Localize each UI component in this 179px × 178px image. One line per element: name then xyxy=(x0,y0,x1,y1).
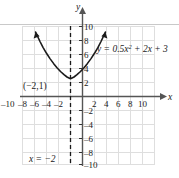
axis-of-symmetry-label: x = −2 xyxy=(28,154,56,164)
y-tick-label-4: 4 xyxy=(84,64,89,74)
x-tick-label-neg2: –2 xyxy=(53,99,63,109)
x-tick-label-neg8: –8 xyxy=(17,99,28,109)
graph-figure: 10 8 6 4 2 –2 –4 –6 –8 –10 –10 –8 –6 –4 … xyxy=(0,0,179,178)
x-tick-label-2: 2 xyxy=(92,99,97,109)
x-tick-label-8: 8 xyxy=(128,99,133,109)
y-tick-label-neg10: –10 xyxy=(83,160,98,170)
equation-rest: + 2x + 3 xyxy=(132,44,168,54)
x-tick-label-6: 6 xyxy=(116,99,121,109)
y-tick-label-10: 10 xyxy=(84,22,94,32)
y-tick-label-6: 6 xyxy=(84,50,89,60)
y-axis-label: y xyxy=(75,2,81,12)
y-tick-label-8: 8 xyxy=(84,36,89,46)
vertex-label: (−2,1) xyxy=(23,81,47,92)
y-tick-label-neg4: –4 xyxy=(83,120,94,130)
y-tick-label-neg6: –6 xyxy=(83,134,94,144)
y-tick-label-2: 2 xyxy=(84,78,89,88)
x-tick-label-neg10: –10 xyxy=(0,99,15,109)
x-tick-label-neg4: –4 xyxy=(41,99,52,109)
y-tick-label-neg8: –8 xyxy=(83,148,94,158)
equation-main: y = 0.5x xyxy=(96,44,129,54)
equation-label: y = 0.5x2 + 2x + 3 xyxy=(96,43,168,55)
y-axis-ticks xyxy=(79,27,82,165)
x-tick-label-4: 4 xyxy=(104,99,109,109)
coordinate-plane: 10 8 6 4 2 –2 –4 –6 –8 –10 –10 –8 –6 –4 … xyxy=(0,0,179,178)
x-tick-label-neg6: –6 xyxy=(29,99,40,109)
x-tick-label-10: 10 xyxy=(138,99,148,109)
x-axis-label: x xyxy=(167,92,173,102)
svg-text:y = 0.5x2 + 2x + 3: y = 0.5x2 + 2x + 3 xyxy=(96,43,168,55)
